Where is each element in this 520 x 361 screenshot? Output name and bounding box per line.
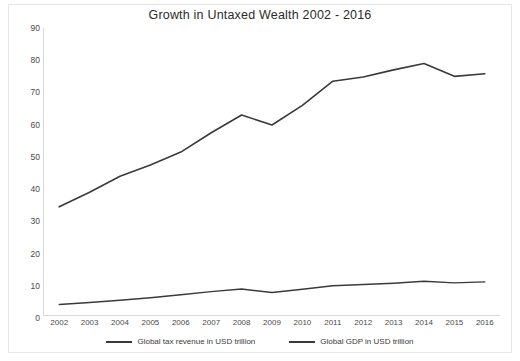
legend-swatch-icon	[289, 341, 315, 343]
x-tick-label: 2011	[324, 318, 341, 327]
x-tick-label: 2014	[415, 318, 433, 327]
x-axis: 2002200320042005200620072008200920102011…	[44, 318, 500, 332]
y-tick-label: 80	[16, 55, 40, 65]
y-tick-label: 90	[16, 23, 40, 33]
x-tick-label: 2007	[202, 318, 220, 327]
chart-title: Growth in Untaxed Wealth 2002 - 2016	[0, 8, 520, 22]
y-axis: 9080706050403020100	[8, 28, 40, 318]
x-tick-label: 2009	[263, 318, 281, 327]
chart-container: Growth in Untaxed Wealth 2002 - 2016 908…	[0, 0, 520, 361]
legend-label: Global GDP in USD trillion	[320, 337, 413, 346]
x-tick-label: 2008	[233, 318, 251, 327]
series-paths	[44, 28, 500, 318]
x-tick-label: 2003	[81, 318, 99, 327]
x-tick-label: 2002	[50, 318, 68, 327]
y-tick-label: 40	[16, 184, 40, 194]
legend-item-global-gdp: Global GDP in USD trillion	[289, 337, 413, 346]
y-tick-label: 50	[16, 152, 40, 162]
y-tick-label: 70	[16, 87, 40, 97]
x-tick-label: 2015	[445, 318, 463, 327]
legend-label: Global tax revenue in USD trillion	[137, 337, 255, 346]
y-tick-label: 10	[16, 281, 40, 291]
chart-legend: Global tax revenue in USD trillion Globa…	[0, 337, 520, 346]
y-tick-label: 60	[16, 120, 40, 130]
y-tick-label: 0	[16, 313, 40, 323]
series-line-global-tax-revenue	[59, 281, 485, 304]
x-tick-label: 2004	[111, 318, 129, 327]
x-tick-label: 2010	[293, 318, 311, 327]
y-tick-label: 30	[16, 216, 40, 226]
legend-swatch-icon	[106, 341, 132, 343]
x-tick-label: 2006	[172, 318, 190, 327]
x-tick-label: 2013	[385, 318, 403, 327]
x-tick-label: 2016	[476, 318, 494, 327]
legend-item-global-tax-revenue: Global tax revenue in USD trillion	[106, 337, 255, 346]
plot-area	[44, 28, 500, 318]
y-tick-label: 20	[16, 249, 40, 259]
x-tick-label: 2012	[354, 318, 372, 327]
x-tick-label: 2005	[141, 318, 159, 327]
series-line-global-gdp	[59, 63, 485, 206]
